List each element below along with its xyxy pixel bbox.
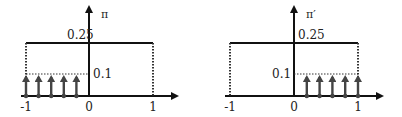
- impulse-dot: [305, 94, 309, 98]
- impulse-dot: [343, 94, 347, 98]
- panel-pi: 0.250.1π-101: [20, 7, 177, 114]
- y-axis-label: π: [101, 8, 108, 21]
- y-axis-label: π′: [306, 8, 316, 21]
- x-tick-label: -1: [224, 100, 236, 114]
- label-0.25: 0.25: [298, 28, 325, 42]
- impulse-dot: [24, 94, 28, 98]
- impulse-dot: [74, 94, 78, 98]
- x-tick-label: -1: [20, 100, 32, 114]
- impulse-dot: [36, 94, 40, 98]
- impulse-dot: [356, 94, 360, 98]
- panel-pi-prime: 0.250.1π′-101: [224, 7, 382, 114]
- x-tick-label: 0: [290, 100, 298, 114]
- impulse-dot: [317, 94, 321, 98]
- x-tick-label: 1: [149, 100, 157, 114]
- impulse-dot: [62, 94, 66, 98]
- x-tick-label: 0: [85, 100, 93, 114]
- impulse-dot: [49, 94, 53, 98]
- x-tick-label: 1: [354, 100, 362, 114]
- label-0.1: 0.1: [93, 67, 112, 81]
- impulse-dot: [330, 94, 334, 98]
- diagram-canvas: 0.250.1π-1010.250.1π′-101: [0, 0, 402, 117]
- label-0.1: 0.1: [272, 67, 291, 81]
- label-0.25: 0.25: [67, 28, 94, 42]
